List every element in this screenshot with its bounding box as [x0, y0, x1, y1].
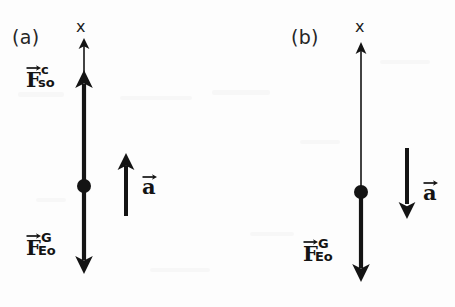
panel-a-label: (a) — [12, 26, 39, 48]
figure-root: (a) x Fcso FGEo — [0, 0, 455, 307]
panel-b-x-axis-arrow — [349, 40, 373, 192]
panel-a-contact-force-arrow — [70, 68, 98, 188]
panel-b-point-object — [351, 182, 371, 202]
panel-a-gravity-force-label: FGEo — [26, 234, 63, 258]
panel-b-axis-label: x — [355, 17, 364, 36]
panel-b-acceleration-arrow — [395, 148, 419, 220]
panel-b-gravity-force-label: FGEo — [303, 240, 340, 264]
panel-a-axis-label: x — [76, 17, 85, 36]
panel-a-acceleration-label: a — [142, 176, 156, 197]
panel-a-acceleration-arrow — [114, 152, 138, 216]
vector-arrow-overbar-icon — [142, 172, 157, 181]
panel-a: (a) x Fcso FGEo — [0, 0, 228, 307]
force-subscript: Eo — [38, 244, 56, 257]
panel-b: (b) x FGEo a — [227, 0, 455, 307]
panel-a-contact-force-label: Fcso — [26, 66, 63, 90]
panel-b-label: (b) — [291, 26, 319, 48]
force-subscript: so — [38, 76, 55, 89]
force-subscript: Eo — [315, 250, 333, 263]
vector-arrow-overbar-icon — [423, 178, 438, 187]
panel-a-point-object — [74, 176, 94, 196]
panel-b-acceleration-label: a — [423, 182, 437, 203]
